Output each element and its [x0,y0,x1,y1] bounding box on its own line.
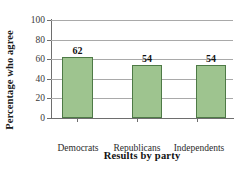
y-tickmark-20 [47,98,51,99]
y-tickmark-100 [47,20,51,21]
y-axis-title: Percentage who agree [2,15,18,145]
x-tickmark-republicans [137,118,138,122]
y-tick-label-40: 40 [19,75,45,84]
y-tick-label-100: 100 [19,16,45,25]
bar-value-independents: 54 [196,53,226,64]
bar-independents [196,65,226,118]
y-tickmark-80 [47,40,51,41]
gridline-80 [51,40,233,41]
y-tick-label-0: 0 [19,114,45,123]
y-tickmark-40 [47,79,51,80]
y-tick-label-80: 80 [19,36,45,45]
bar-republicans [132,65,162,118]
bar-democrats [62,57,93,118]
y-axis-tick-labels: 100 80 60 40 20 0 [19,0,45,178]
y-tickmark-0 [47,118,51,119]
y-tickmark-60 [47,59,51,60]
bar-value-democrats: 62 [62,45,93,56]
gridline-100 [51,20,233,21]
x-axis-title: Results by party [51,150,233,161]
y-tick-label-60: 60 [19,55,45,64]
x-axis-line [51,118,234,119]
y-tick-label-20: 20 [19,94,45,103]
x-tickmark-democrats [77,118,78,122]
plot-area: 62 54 54 Democrats Republicans Independe… [51,20,233,118]
x-tickmark-independents [197,118,198,122]
bar-value-republicans: 54 [132,53,162,64]
bar-chart: Percentage who agree 100 80 60 40 20 0 [0,0,244,178]
